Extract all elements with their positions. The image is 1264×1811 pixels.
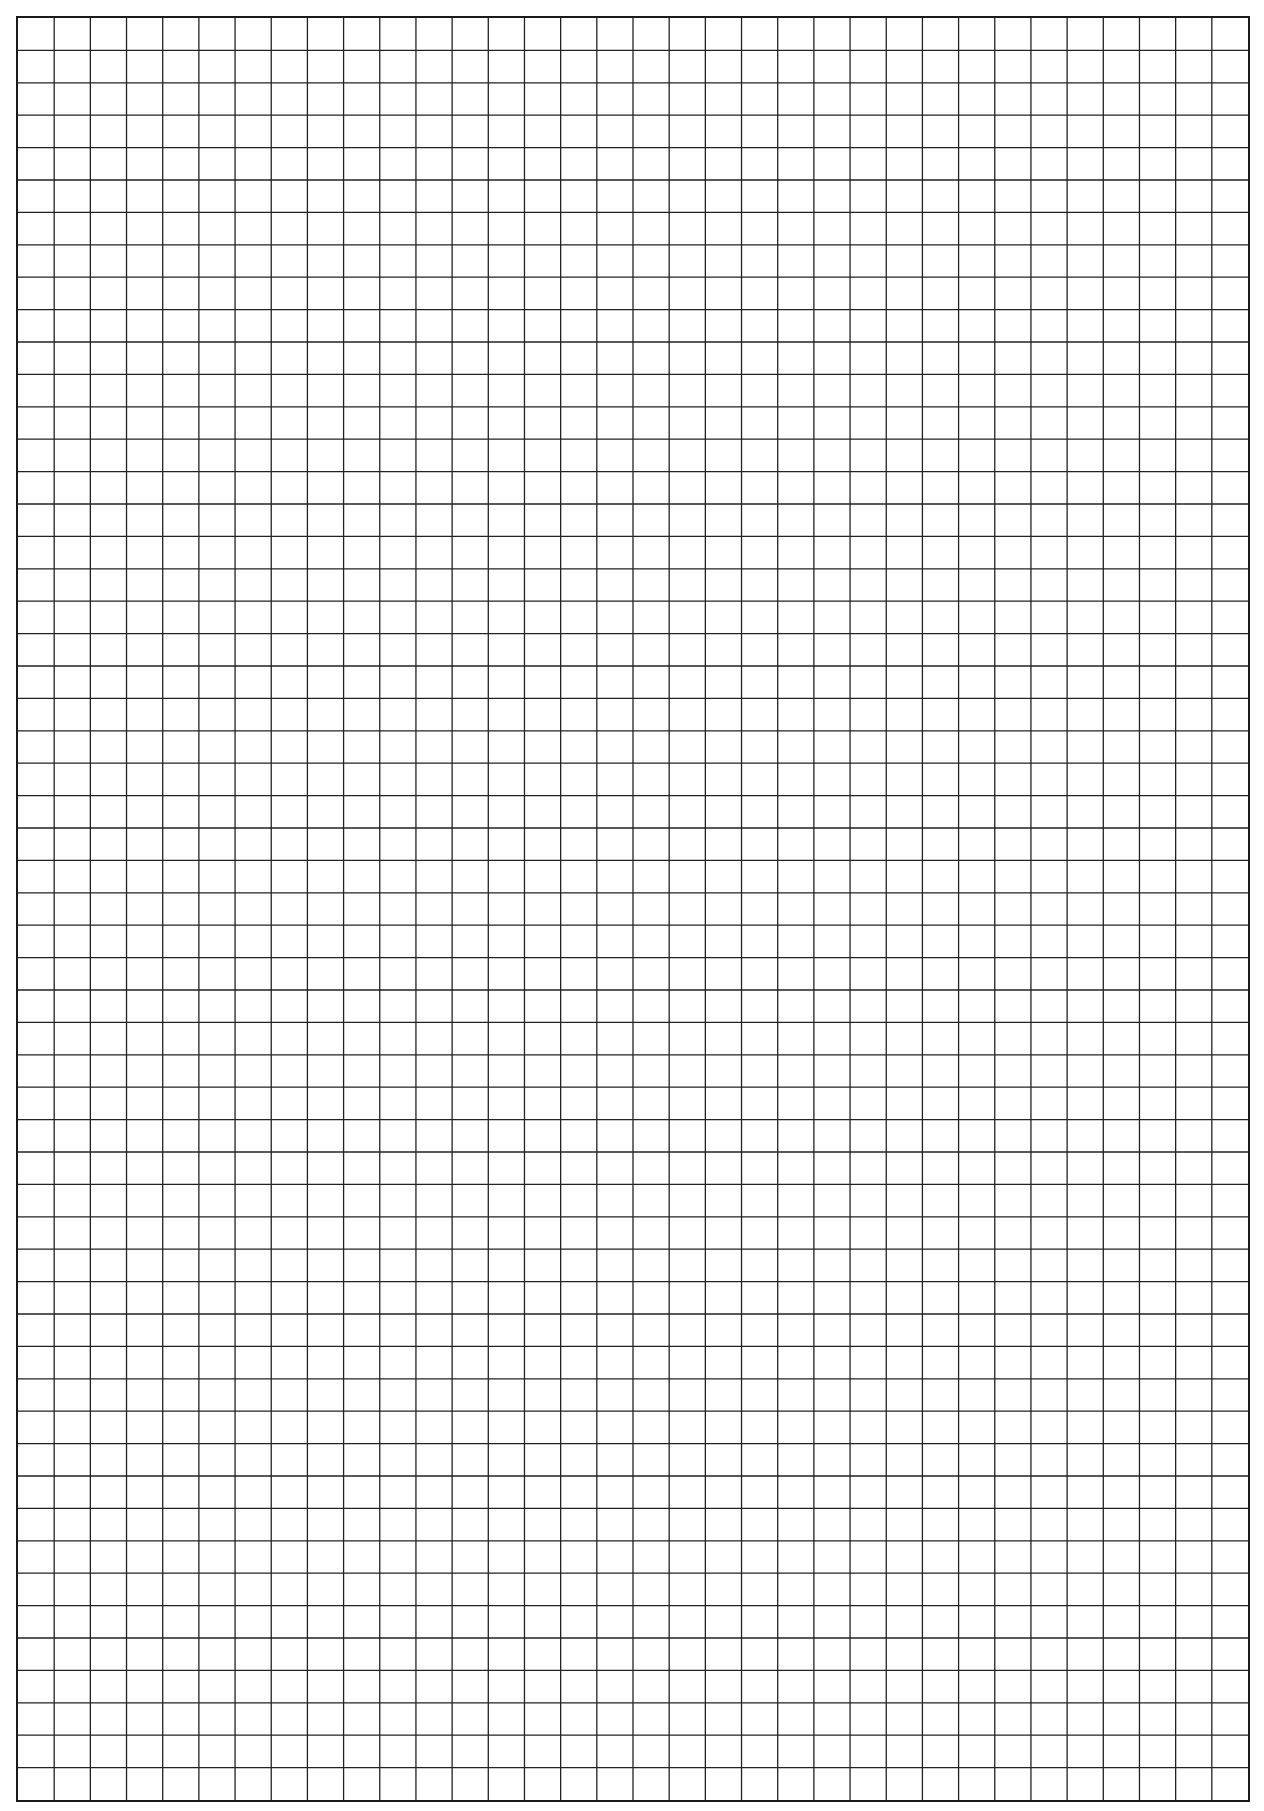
grid-lines [18,18,1248,1800]
graph-paper-sheet [16,16,1250,1802]
